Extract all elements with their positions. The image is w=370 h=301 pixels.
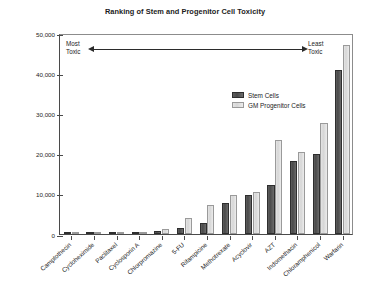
bar-gm-progenitor-cells: [320, 123, 327, 234]
y-tick-mark-inner: [60, 35, 63, 36]
arrow-right-head-icon: [302, 46, 308, 52]
x-tick-mark: [207, 236, 208, 240]
y-tick-mark-inner: [60, 75, 63, 76]
legend-item: Stem Cells: [232, 90, 306, 100]
most-toxic-annotation: Most Toxic: [66, 40, 80, 55]
bar-stem-cells: [200, 223, 207, 234]
least-toxic-annotation: Least Toxic: [308, 40, 323, 55]
most-toxic-line1: Most: [66, 40, 80, 47]
x-tick-mark: [162, 236, 163, 240]
arrow-left-head-icon: [88, 46, 94, 52]
bar-stem-cells: [245, 195, 252, 234]
bar-gm-progenitor-cells: [117, 232, 124, 234]
bar-gm-progenitor-cells: [207, 205, 214, 234]
y-tick-mark-inner: [60, 115, 63, 116]
legend-item: GM Progenitor Cells: [232, 100, 306, 110]
chart-title: Ranking of Stem and Progenitor Cell Toxi…: [0, 7, 370, 16]
y-tick-mark-inner: [60, 195, 63, 196]
y-tick-label: 0: [52, 232, 55, 239]
bar-gm-progenitor-cells: [139, 232, 146, 234]
x-tick-mark: [275, 236, 276, 240]
y-tick-mark-inner: [60, 236, 63, 237]
bar-stem-cells: [222, 203, 229, 234]
plot-area: 010,00020,00030,00040,00050,000 Most Tox…: [59, 34, 353, 235]
bar-stem-cells: [290, 161, 297, 234]
chart-figure: Ranking of Stem and Progenitor Cell Toxi…: [0, 0, 370, 301]
chart-legend: Stem CellsGM Progenitor Cells: [232, 90, 306, 110]
y-tick-label: 50,000: [36, 31, 55, 38]
bar-gm-progenitor-cells: [72, 232, 79, 234]
y-tick-mark-inner: [60, 155, 63, 156]
bar-stem-cells: [86, 232, 93, 234]
least-toxic-line1: Least: [308, 40, 323, 47]
bar-stem-cells: [109, 232, 116, 234]
bar-stem-cells: [154, 231, 161, 234]
y-tick-label: 20,000: [36, 151, 55, 158]
y-tick-label: 30,000: [36, 111, 55, 118]
bar-stem-cells: [64, 232, 71, 234]
bar-stem-cells: [335, 70, 342, 234]
bar-stem-cells: [313, 154, 320, 234]
x-tick-mark: [320, 236, 321, 240]
bar-gm-progenitor-cells: [343, 45, 350, 234]
x-tick-mark: [230, 236, 231, 240]
x-tick-mark: [94, 236, 95, 240]
bar-gm-progenitor-cells: [230, 195, 237, 234]
x-tick-mark: [71, 236, 72, 240]
least-toxic-line2: Toxic: [308, 48, 322, 55]
bar-stem-cells: [177, 228, 184, 234]
bar-gm-progenitor-cells: [275, 140, 282, 234]
x-tick-mark: [117, 236, 118, 240]
x-tick-mark: [184, 236, 185, 240]
bar-gm-progenitor-cells: [162, 229, 169, 234]
most-toxic-line2: Toxic: [66, 48, 80, 55]
x-tick-mark: [343, 236, 344, 240]
bar-gm-progenitor-cells: [253, 192, 260, 234]
legend-swatch-prog: [232, 102, 244, 109]
legend-swatch-stem: [232, 92, 244, 99]
toxicity-direction-arrow: [94, 49, 302, 50]
legend-label: Stem Cells: [248, 92, 279, 99]
x-tick-mark: [139, 236, 140, 240]
x-tick-mark: [252, 236, 253, 240]
bar-stem-cells: [132, 232, 139, 234]
x-tick-mark: [297, 236, 298, 240]
legend-label: GM Progenitor Cells: [248, 102, 306, 109]
bar-gm-progenitor-cells: [298, 152, 305, 234]
y-tick-label: 10,000: [36, 191, 55, 198]
bar-stem-cells: [267, 185, 274, 234]
bar-gm-progenitor-cells: [185, 218, 192, 234]
bar-gm-progenitor-cells: [94, 232, 101, 234]
y-tick-label: 40,000: [36, 71, 55, 78]
